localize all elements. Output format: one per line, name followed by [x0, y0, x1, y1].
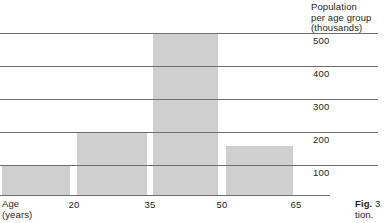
plot-area	[0, 0, 330, 196]
figure-caption-line-1: Fig. 3	[355, 198, 388, 209]
y-axis-title-line-3: (thousands)	[311, 23, 388, 34]
x-axis-title: Age (years)	[2, 199, 32, 220]
bar-age-50-65	[226, 146, 293, 195]
x-tick-label-35: 35	[145, 199, 156, 210]
figure-caption-line-2: tion.	[355, 209, 388, 220]
bar-age-20-35	[77, 132, 147, 195]
y-tick-label-100: 100	[313, 167, 329, 178]
figure-number: 3	[375, 198, 380, 209]
x-tick-label-65: 65	[291, 199, 302, 210]
x-tick-label-20: 20	[69, 199, 80, 210]
x-axis-title-line-1: Age	[2, 199, 32, 210]
y-tick-label-500: 500	[313, 35, 329, 46]
figure-caption: Fig. 3 tion.	[355, 198, 388, 220]
bar-age-35-50	[153, 33, 218, 195]
x-axis-title-line-2: (years)	[2, 210, 32, 221]
y-tick-label-200: 200	[313, 134, 329, 145]
x-tick-label-50: 50	[217, 199, 228, 210]
gridline-100	[0, 165, 378, 166]
y-axis-title-line-1: Population	[311, 2, 388, 13]
y-axis-title: Population per age group (thousands)	[311, 2, 388, 34]
gridline-300	[0, 99, 378, 100]
gridline-400	[0, 66, 378, 67]
histogram-figure: Population per age group (thousands) 500…	[0, 0, 388, 223]
y-tick-label-400: 400	[313, 68, 329, 79]
y-tick-label-300: 300	[313, 101, 329, 112]
gridline-200	[0, 132, 378, 133]
figure-label: Fig.	[355, 198, 372, 209]
bar-age-5-20	[2, 165, 70, 195]
x-axis-baseline	[0, 195, 330, 196]
